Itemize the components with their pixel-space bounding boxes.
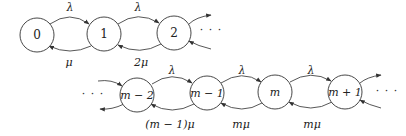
continuation-dots: · · · [200,24,222,37]
rate-label-m-mu: mμ [303,118,321,131]
edge-m-1-to-m [221,76,261,83]
rate-label-m-minus-1-mu: (m − 1)μ [145,118,194,131]
rate-label-lambda: λ [238,64,246,77]
state-label: m − 1 [190,87,224,100]
top-row: 0 1 2 λ λ μ 2μ · · · [20,1,222,69]
edge-1-to-0 [49,46,91,51]
edge-in-m-2 [98,81,122,86]
edge-2-to-1 [118,44,161,50]
edge-in-m+1 [360,100,381,108]
rate-label-lambda: λ [134,1,142,14]
state-node-1: 1 [87,17,121,51]
leading-continuation-dots: · · · [82,88,104,101]
state-label: m + 1 [328,86,362,99]
edge-0-to-1 [50,17,89,24]
edge-1-to-2 [118,17,159,24]
rate-label-2mu: 2μ [133,56,148,69]
state-label: 1 [100,27,108,41]
rate-label-mu: μ [65,56,72,69]
state-label: 2 [170,26,178,40]
continuation-dots: · · · [376,85,398,98]
rate-label-lambda: λ [66,1,74,14]
edge-m+1-to-m [289,102,332,108]
edge-m+1-out [360,75,381,83]
markov-chain-diagram: 0 1 2 λ λ μ 2μ · · · · · · [0,0,406,136]
state-label: m [270,86,280,99]
edge-m-1-to-m-2 [151,104,194,110]
state-node-m-1: m − 1 [190,76,224,110]
state-node-m+1: m + 1 [328,75,362,109]
edge-m-2-out [100,104,124,109]
edge-m-to-m-1 [221,103,262,109]
bottom-row: · · · m − 2 m − 1 m m + 1 λ [82,64,398,131]
state-label: m − 2 [120,89,154,102]
edge-in-2 [189,41,211,49]
state-node-m: m [258,75,292,109]
state-node-0: 0 [20,18,54,52]
state-label: 0 [33,28,41,42]
rate-label-lambda: λ [168,64,176,77]
state-node-2: 2 [157,16,191,50]
edge-m-2-to-m-1 [152,77,192,84]
rate-label-m-mu: mμ [232,118,250,131]
rate-label-lambda: λ [307,64,315,77]
state-node-m-2: m − 2 [120,78,154,112]
